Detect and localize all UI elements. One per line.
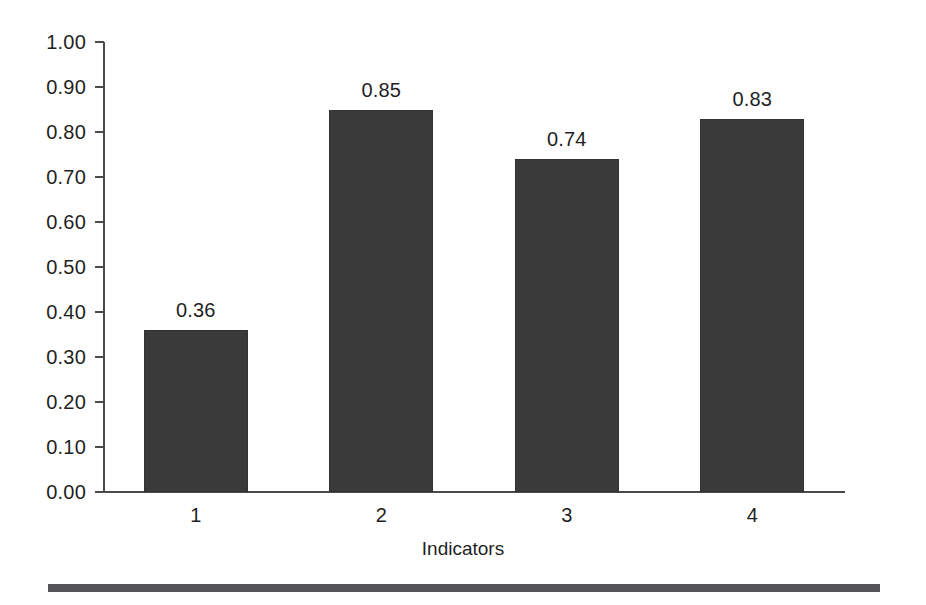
bar-value-label: 0.74 [547,127,587,151]
y-tick-label: 1.00 [0,29,86,55]
bar[interactable] [700,119,804,493]
y-tick-label: 0.60 [0,209,86,235]
y-tick-label: 0.00 [0,479,86,505]
x-axis-category-label: 2 [341,502,421,528]
y-tick-label: 0.40 [0,299,86,325]
bar-value-label: 0.83 [732,87,772,111]
bar[interactable] [329,110,433,493]
bar-value-label: 0.36 [176,298,216,322]
plot-area: 0.360.850.740.83 [103,42,845,492]
bar-value-label: 0.85 [361,78,401,102]
y-tick-label: 0.90 [0,74,86,100]
x-axis-category-label: 3 [527,502,607,528]
bar[interactable] [144,330,248,492]
x-axis-category-label: 1 [156,502,236,528]
y-tick-label: 0.10 [0,434,86,460]
y-tick-label: 0.30 [0,344,86,370]
y-tick-label: 0.80 [0,119,86,145]
bar-group[interactable]: 0.85 [329,42,433,492]
bar-chart-figure: 1.000.900.800.700.600.500.400.300.200.10… [0,0,926,605]
y-tick-label: 0.70 [0,164,86,190]
bar-group[interactable]: 0.74 [515,42,619,492]
y-tick-label: 0.50 [0,254,86,280]
bar-group[interactable]: 0.36 [144,42,248,492]
x-axis-category-label: 4 [712,502,792,528]
bar[interactable] [515,159,619,492]
bottom-rule [48,584,880,592]
x-axis-title: Indicators [0,537,926,561]
y-tick-label: 0.20 [0,389,86,415]
bar-group[interactable]: 0.83 [700,42,804,492]
